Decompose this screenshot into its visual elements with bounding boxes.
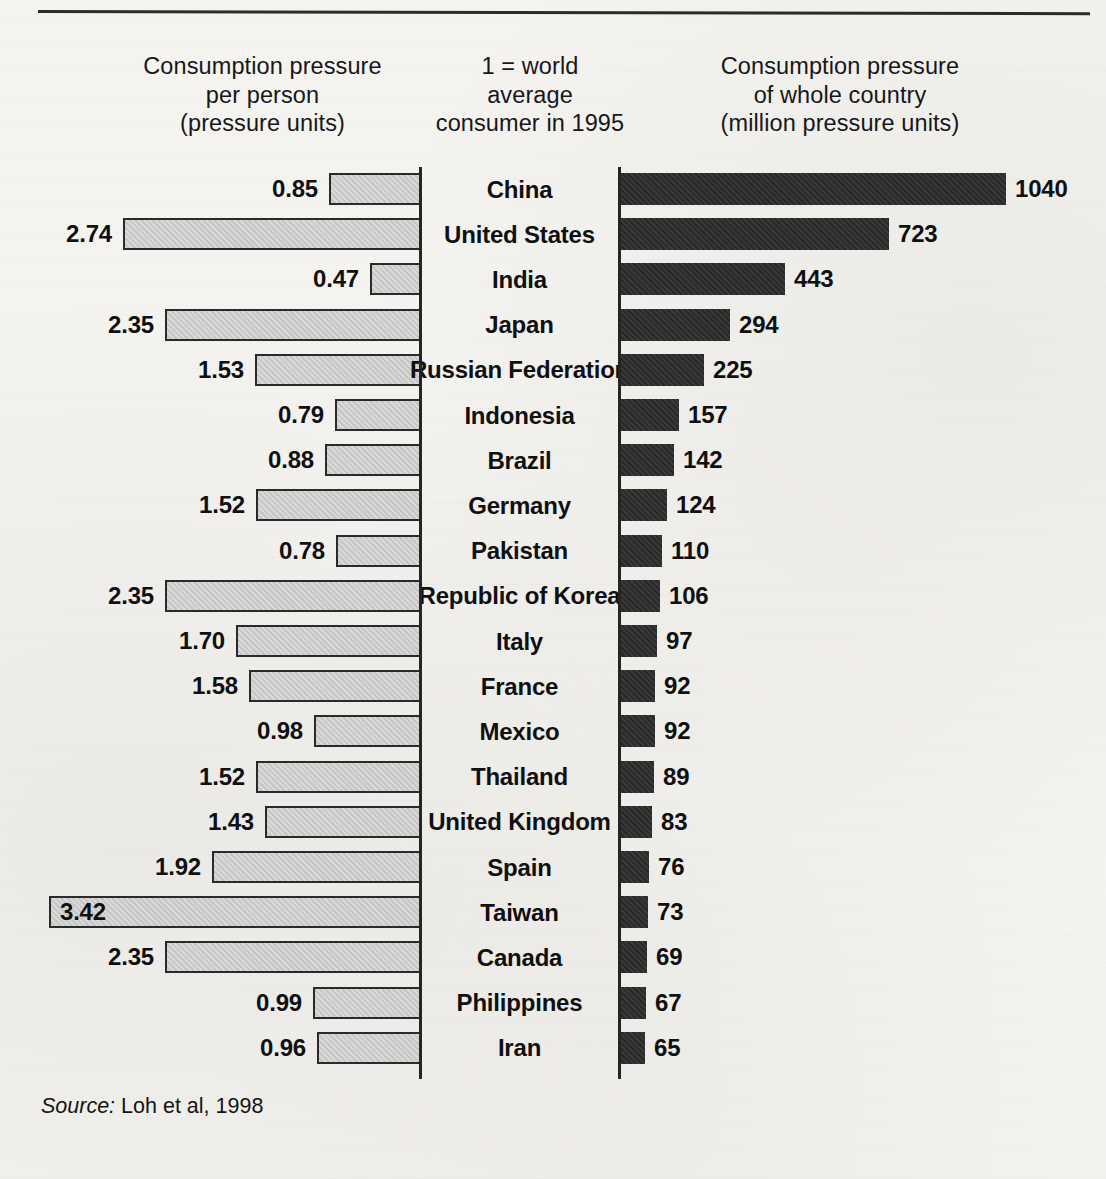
chart-row: 2.74United States723 (0, 212, 1106, 257)
left-bar-group: 2.35 (165, 309, 421, 341)
right-bar (621, 851, 649, 883)
header-left-line2: per person (95, 81, 430, 110)
left-bar (212, 851, 421, 883)
left-bar-value-label: 0.88 (268, 446, 314, 474)
chart-row: 1.53Russian Federation225 (0, 348, 1106, 393)
country-label: Thailand (421, 755, 618, 800)
left-bar-group: 1.53 (255, 354, 421, 386)
header-middle-line2: average (430, 81, 630, 110)
source-citation: Loh et al, 1998 (121, 1094, 263, 1118)
left-bar-value-label: 0.98 (257, 717, 303, 745)
right-bar-value-label: 97 (666, 627, 692, 655)
country-label: China (421, 167, 618, 212)
left-bar (236, 625, 421, 657)
left-bar-value-label: 2.35 (108, 311, 154, 339)
country-label: Brazil (421, 438, 618, 483)
right-bar-value-label: 142 (683, 446, 722, 474)
left-bar-group: 0.88 (325, 444, 421, 476)
top-divider-rule (38, 10, 1090, 15)
right-bar (621, 399, 679, 431)
left-bar-group: 0.98 (314, 715, 421, 747)
right-bar-group: 67 (621, 987, 681, 1019)
left-panel-axis (419, 167, 422, 1079)
right-bar-group: 92 (621, 670, 690, 702)
left-bar-value-label: 0.85 (272, 175, 318, 203)
left-bar-group: 1.58 (249, 670, 421, 702)
right-bar-value-label: 92 (664, 672, 690, 700)
right-bar-value-label: 1040 (1015, 175, 1068, 203)
chart-row: 2.35Canada69 (0, 935, 1106, 980)
right-bar-value-label: 76 (658, 853, 684, 881)
country-label: Indonesia (421, 393, 618, 438)
chart-row: 1.92Spain76 (0, 845, 1106, 890)
right-bar-group: 83 (621, 806, 687, 838)
header-left-line3: (pressure units) (95, 109, 430, 138)
header-left-line1: Consumption pressure (95, 52, 430, 81)
chart-row: 0.85China1040 (0, 167, 1106, 212)
header-right-line3: (million pressure units) (640, 109, 1040, 138)
right-bar (621, 535, 662, 567)
left-bar-value-label: 2.74 (66, 220, 112, 248)
left-bar (165, 309, 421, 341)
right-bar (621, 1032, 645, 1064)
left-bar-value-label: 0.79 (278, 401, 324, 429)
source-label: Source: (41, 1094, 115, 1118)
right-bar (621, 761, 654, 793)
chart-row: 0.99Philippines67 (0, 981, 1106, 1026)
right-bar-group: 97 (621, 625, 692, 657)
right-bar-value-label: 110 (671, 537, 709, 565)
right-bar-group: 110 (621, 535, 709, 567)
chart-row: 1.52Thailand89 (0, 755, 1106, 800)
right-bar (621, 580, 660, 612)
left-bar-group: 1.70 (236, 625, 421, 657)
right-bar-group: 73 (621, 896, 683, 928)
left-bar-value-label: 0.47 (313, 265, 359, 293)
right-bar-value-label: 294 (739, 311, 778, 339)
right-bar (621, 806, 652, 838)
left-bar (325, 444, 421, 476)
right-bar-group: 106 (621, 580, 708, 612)
country-label: Pakistan (421, 529, 618, 574)
left-bar-group: 3.42 (49, 896, 421, 928)
chart-row: 1.70Italy97 (0, 619, 1106, 664)
left-bar-group: 1.52 (256, 761, 421, 793)
left-bar-value-label: 1.70 (179, 627, 225, 655)
right-bar (621, 309, 730, 341)
right-bar (621, 218, 889, 250)
header-middle-line1: 1 = world (430, 52, 630, 81)
header-right-line1: Consumption pressure (640, 52, 1040, 81)
chart-row: 0.98Mexico92 (0, 709, 1106, 754)
country-label: Mexico (421, 709, 618, 754)
right-bar-value-label: 225 (713, 356, 752, 384)
left-bar-group: 2.35 (165, 580, 421, 612)
right-bar-value-label: 124 (676, 491, 715, 519)
right-bar-value-label: 65 (654, 1034, 680, 1062)
country-label: India (421, 257, 618, 302)
right-bar-value-label: 83 (661, 808, 687, 836)
chart-row: 2.35Republic of Korea106 (0, 574, 1106, 619)
right-bar-group: 723 (621, 218, 937, 250)
country-label: Canada (421, 935, 618, 980)
right-bar-value-label: 89 (663, 763, 689, 791)
right-bar-group: 157 (621, 399, 727, 431)
right-bar (621, 489, 667, 521)
header-middle-panel: 1 = world average consumer in 1995 (430, 52, 630, 138)
country-label: United Kingdom (421, 800, 618, 845)
left-bar-value-label: 2.35 (108, 943, 154, 971)
left-bar-group: 1.43 (265, 806, 421, 838)
left-bar (256, 761, 421, 793)
chart-row: 3.42Taiwan73 (0, 890, 1106, 935)
left-bar-value-label: 1.52 (199, 491, 245, 519)
bidirectional-bar-chart: 0.85China10402.74United States7230.47Ind… (0, 167, 1106, 1079)
left-bar-value-label: 1.92 (155, 853, 201, 881)
left-bar (256, 489, 421, 521)
country-label: Republic of Korea (421, 574, 618, 619)
left-bar-group: 0.78 (336, 535, 421, 567)
right-bar-group: 142 (621, 444, 722, 476)
right-bar (621, 173, 1006, 205)
left-bar-group: 0.85 (329, 173, 421, 205)
right-bar-group: 69 (621, 941, 682, 973)
right-panel-axis (618, 167, 621, 1079)
chart-row: 2.35Japan294 (0, 303, 1106, 348)
right-bar-group: 76 (621, 851, 684, 883)
